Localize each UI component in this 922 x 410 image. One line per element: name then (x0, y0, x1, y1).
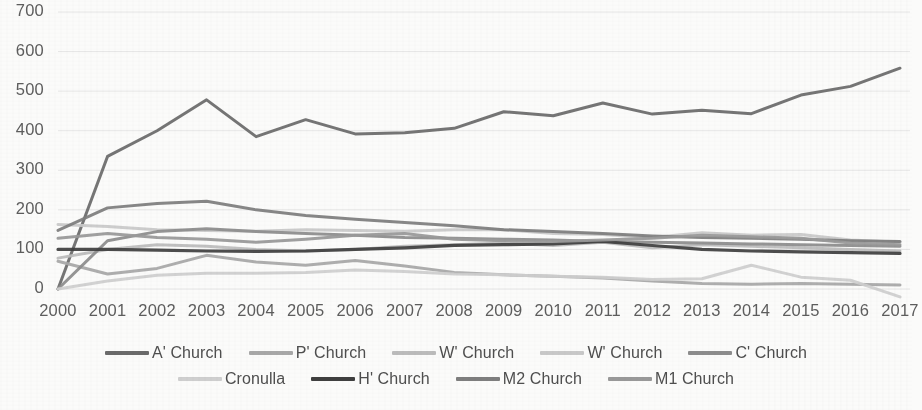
x-axis-tick-label: 2002 (131, 301, 183, 320)
x-axis-tick-label: 2007 (379, 301, 431, 320)
series-line (58, 265, 900, 297)
legend-item[interactable]: Cronulla (178, 370, 285, 388)
legend-color-swatch (540, 351, 584, 355)
legend-label: W' Church (439, 344, 514, 362)
legend-item[interactable]: A' Church (105, 344, 223, 362)
x-axis-tick-label: 2012 (626, 301, 678, 320)
legend-label: A' Church (152, 344, 223, 362)
x-axis-tick-label: 2011 (577, 301, 629, 320)
x-axis-tick-label: 2004 (230, 301, 282, 320)
legend-item[interactable]: M2 Church (456, 370, 582, 388)
legend-label: H' Church (358, 370, 430, 388)
x-axis-tick-label: 2005 (280, 301, 332, 320)
legend-label: P' Church (296, 344, 367, 362)
legend-color-swatch (178, 377, 222, 381)
x-axis-tick-label: 2015 (775, 301, 827, 320)
x-axis-tick-label: 2016 (824, 301, 876, 320)
legend-color-swatch (456, 377, 500, 381)
legend-color-swatch (392, 351, 436, 355)
series-line (58, 68, 900, 289)
legend-label: W' Church (587, 344, 662, 362)
legend-color-swatch (249, 351, 293, 355)
x-axis-tick-label: 2000 (32, 301, 84, 320)
x-axis-tick-label: 2006 (329, 301, 381, 320)
x-axis-tick-label: 2014 (725, 301, 777, 320)
x-axis-tick-label: 2008 (428, 301, 480, 320)
legend-label: M2 Church (503, 370, 582, 388)
legend-item[interactable]: W' Church (540, 344, 662, 362)
legend-label: Cronulla (225, 370, 285, 388)
legend-item[interactable]: H' Church (311, 370, 430, 388)
legend-color-swatch (608, 377, 652, 381)
legend-color-swatch (105, 351, 149, 355)
x-axis-tick-label: 2009 (478, 301, 530, 320)
legend-item[interactable]: W' Church (392, 344, 514, 362)
x-axis-tick-label: 2003 (181, 301, 233, 320)
x-axis-tick-label: 2017 (874, 301, 922, 320)
x-axis-tick-label: 2013 (676, 301, 728, 320)
x-axis-tick-label: 2001 (82, 301, 134, 320)
legend-item[interactable]: M1 Church (608, 370, 734, 388)
legend-item[interactable]: P' Church (249, 344, 367, 362)
x-axis-tick-label: 2010 (527, 301, 579, 320)
legend-color-swatch (688, 351, 732, 355)
legend-row-2: CronullaH' ChurchM2 ChurchM1 Church (0, 366, 912, 392)
legend-item[interactable]: C' Church (688, 344, 807, 362)
legend-label: M1 Church (655, 370, 734, 388)
legend-label: C' Church (735, 344, 807, 362)
legend-color-swatch (311, 377, 355, 381)
chart-legend: A' ChurchP' ChurchW' ChurchW' ChurchC' C… (0, 340, 912, 392)
legend-row-1: A' ChurchP' ChurchW' ChurchW' ChurchC' C… (0, 340, 912, 366)
